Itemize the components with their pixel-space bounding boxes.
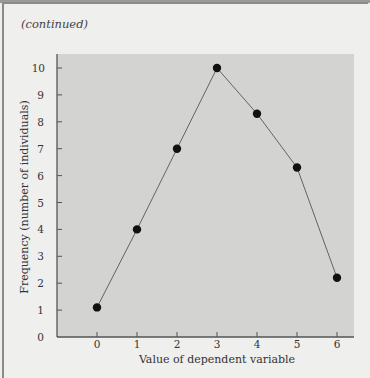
x-tick-label: 5 [294, 338, 301, 350]
data-point [253, 110, 261, 118]
y-tick-label: 2 [37, 277, 44, 289]
y-tick-label: 1 [37, 304, 44, 316]
y-tick-label: 0 [37, 331, 44, 343]
x-tick-label: 3 [214, 338, 221, 350]
data-point [173, 145, 181, 153]
x-tick-label: 4 [254, 338, 261, 350]
data-point [93, 303, 101, 311]
data-point [213, 64, 221, 72]
y-tick-label: 8 [37, 116, 44, 128]
y-tick-label: 9 [37, 89, 44, 101]
y-tick-label: 6 [37, 170, 44, 182]
frequency-line-chart: 0123456789100123456 Value of dependent v… [0, 0, 370, 378]
x-tick-label: 6 [334, 338, 341, 350]
y-tick-label: 4 [37, 223, 44, 235]
data-point [293, 163, 301, 171]
x-tick-label: 2 [174, 338, 181, 350]
x-axis-label: Value of dependent variable [138, 353, 295, 366]
y-tick-label: 3 [37, 250, 44, 262]
y-tick-label: 5 [37, 197, 44, 209]
x-tick-label: 0 [94, 338, 101, 350]
x-tick-label: 1 [134, 338, 141, 350]
y-tick-label: 7 [37, 143, 44, 155]
data-point [333, 274, 341, 282]
y-axis-label: Frequency (number of individuals) [18, 100, 31, 293]
data-point [133, 225, 141, 233]
y-tick-label: 10 [32, 62, 45, 74]
plot-background [57, 54, 354, 337]
